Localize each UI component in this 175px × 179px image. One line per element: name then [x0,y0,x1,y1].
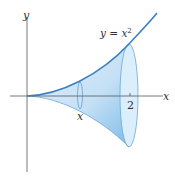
curve-label: y = x2 [99,27,132,39]
y-axis-label: y [22,9,30,22]
tick-2-label: 2 [127,99,134,112]
x-axis-label: x [163,90,170,103]
end-cap-ellipse [120,44,138,147]
cross-section-label: x [77,110,84,123]
solid-of-revolution-diagram: y x y = x2 x 2 [0,0,175,179]
